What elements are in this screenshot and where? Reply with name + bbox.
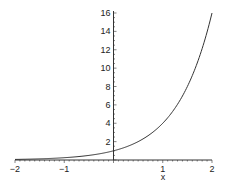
y-tick-label: 12: [100, 45, 110, 55]
plot-area: −2−112246810121416 x: [0, 0, 235, 185]
x-tick-label: −2: [10, 164, 20, 174]
y-tick-label: 16: [100, 8, 110, 18]
x-tick-label: 2: [209, 164, 214, 174]
y-tick-label: 10: [100, 63, 110, 73]
tick-labels: −2−112246810121416: [10, 8, 215, 174]
y-tick-label: 8: [105, 82, 110, 92]
y-tick-label: 2: [105, 137, 110, 147]
x-axis-label: x: [161, 172, 166, 182]
y-tick-label: 4: [105, 118, 110, 128]
y-tick-label: 6: [105, 100, 110, 110]
y-tick-label: 14: [100, 26, 110, 36]
x-tick-label: −1: [59, 164, 69, 174]
axes: [15, 11, 212, 160]
